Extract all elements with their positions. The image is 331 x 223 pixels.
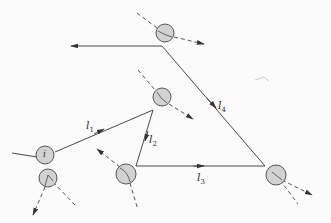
node-bottom-mid [116, 164, 136, 184]
label-l4: l4 [218, 100, 226, 114]
dashed-track-right-out [282, 180, 312, 195]
diagram-canvas [0, 0, 331, 223]
label-l2: l2 [149, 134, 157, 148]
node-i-label: i [43, 150, 46, 159]
label-l3-sub: 3 [201, 178, 205, 186]
node-top [156, 24, 174, 42]
node-middle [153, 88, 171, 106]
dashed-track-top-out [174, 37, 204, 44]
dashed-track-mid-in [138, 70, 155, 90]
label-l4-sub: 4 [222, 106, 226, 114]
dashed-track-mid-out [169, 104, 193, 119]
track-l1 [55, 110, 153, 152]
track-l4 [162, 46, 265, 166]
incoming-track [12, 153, 37, 157]
dashed-track-i-down [33, 187, 45, 215]
label-l2-sub: 2 [153, 140, 157, 148]
dashed-track-bm-out [97, 149, 120, 167]
label-l3: l3 [197, 172, 205, 186]
label-l1-sub: 1 [90, 126, 94, 134]
arrow-l4 [207, 98, 216, 108]
node-i-lower [39, 169, 57, 187]
dashed-track-top-in [137, 13, 157, 28]
dashed-track-i-right [53, 182, 75, 205]
faint-mark [255, 77, 269, 81]
label-l1: l1 [86, 120, 94, 134]
dashed-track-bm-down [130, 183, 138, 210]
